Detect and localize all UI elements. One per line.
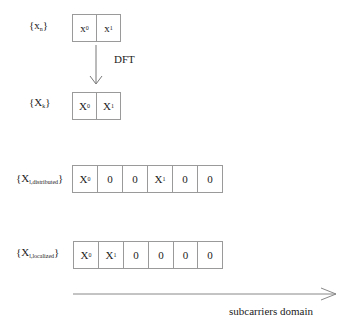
cell: 0 <box>198 242 222 268</box>
subcarriers-axis-label: subcarriers domain <box>229 305 313 317</box>
cell: 0 <box>149 242 174 268</box>
cell: X1 <box>148 166 173 192</box>
cell: 0 <box>173 166 198 192</box>
cell: 0 <box>174 242 198 268</box>
arrows-layer <box>0 0 353 327</box>
distributed-row: X0 0 0 X1 0 0 <box>72 165 223 193</box>
subcarriers-axis-arrow <box>73 288 336 300</box>
cell: 0 <box>98 166 123 192</box>
freq-domain-row: X0 X1 <box>72 92 121 120</box>
cell: X1 <box>97 93 120 119</box>
dft-arrow <box>90 45 102 84</box>
localized-row: X0 X1 0 0 0 0 <box>73 241 223 269</box>
time-domain-label: {xn} <box>29 19 48 32</box>
dft-label: DFT <box>114 53 135 65</box>
cell: X0 <box>73 166 98 192</box>
cell: 0 <box>198 166 222 192</box>
cell: X1 <box>99 242 124 268</box>
cell: 0 <box>124 242 149 268</box>
time-domain-row: x0 x1 <box>72 14 121 42</box>
distributed-label: {Xl,distributed} <box>16 172 63 185</box>
localized-label: {Xl,localized} <box>16 246 59 259</box>
freq-domain-label: {Xk} <box>29 96 51 109</box>
cell: X0 <box>74 242 99 268</box>
cell: X0 <box>73 93 97 119</box>
cell: x1 <box>97 15 120 41</box>
cell: x0 <box>73 15 97 41</box>
cell: 0 <box>123 166 148 192</box>
